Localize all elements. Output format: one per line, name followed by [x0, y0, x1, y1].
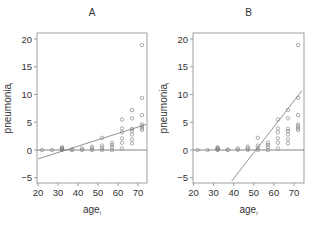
data-point: [256, 136, 259, 139]
data-point: [130, 133, 133, 136]
x-tick-label: 60: [269, 187, 280, 198]
x-tick-label: 50: [249, 187, 260, 198]
data-point: [120, 118, 123, 121]
data-point: [286, 127, 289, 130]
data-point: [276, 127, 279, 130]
data-point: [286, 133, 289, 136]
x-tick-label: 30: [208, 187, 219, 198]
data-point: [276, 147, 279, 150]
y-tick-label: 15: [177, 61, 188, 72]
data-point: [140, 113, 143, 116]
x-axis-label: agei: [83, 204, 101, 216]
x-tick-label: 50: [93, 187, 104, 198]
data-point: [286, 138, 289, 141]
x-axis-label: agei: [239, 204, 257, 216]
data-point: [140, 43, 143, 46]
data-point: [120, 127, 123, 130]
y-tick-label: 5: [27, 117, 32, 128]
y-tick-label: 20: [177, 34, 188, 45]
data-point: [140, 96, 143, 99]
panel-title: A: [89, 7, 96, 18]
plot-frame: [37, 33, 147, 183]
plot-frame: [193, 33, 304, 183]
data-point: [276, 137, 279, 140]
y-tick-label: −5: [21, 172, 32, 183]
data-point: [110, 141, 113, 144]
data-point: [130, 108, 133, 111]
data-point: [130, 117, 133, 120]
y-axis-label: pneumoniai: [2, 83, 14, 134]
data-point: [130, 142, 133, 145]
x-tick-label: 20: [188, 187, 199, 198]
panel-a: A−505101520203040506070ageipneumoniai: [2, 7, 147, 216]
data-point: [266, 141, 269, 144]
x-tick-label: 40: [228, 187, 239, 198]
data-point: [286, 142, 289, 145]
data-point: [286, 117, 289, 120]
data-point: [130, 138, 133, 141]
data-point: [296, 43, 299, 46]
data-point: [100, 144, 103, 147]
x-tick-label: 70: [289, 187, 300, 198]
y-tick-label: 20: [21, 34, 32, 45]
y-tick-label: 15: [21, 61, 32, 72]
data-point: [276, 141, 279, 144]
y-axis-label: pneumoniai: [158, 83, 170, 134]
x-tick-label: 20: [33, 187, 44, 198]
y-tick-label: 5: [183, 117, 188, 128]
data-point: [276, 131, 279, 134]
y-tick-label: 0: [183, 145, 188, 156]
fit-line: [38, 124, 146, 158]
y-tick-label: 10: [177, 89, 188, 100]
x-tick-label: 30: [53, 187, 64, 198]
data-point: [296, 113, 299, 116]
x-tick-label: 40: [73, 187, 84, 198]
chart-canvas: A−505101520203040506070ageipneumoniaiB−5…: [0, 0, 314, 228]
data-point: [120, 137, 123, 140]
x-tick-label: 60: [113, 187, 124, 198]
y-tick-label: 10: [21, 89, 32, 100]
data-point: [120, 147, 123, 150]
x-tick-label: 70: [133, 187, 144, 198]
panel-title: B: [245, 7, 252, 18]
panel-b: B−505101520203040506070ageipneumoniai: [158, 7, 304, 216]
data-point: [120, 141, 123, 144]
y-tick-label: 0: [27, 145, 32, 156]
y-tick-label: −5: [177, 172, 188, 183]
fit-line: [232, 91, 302, 181]
